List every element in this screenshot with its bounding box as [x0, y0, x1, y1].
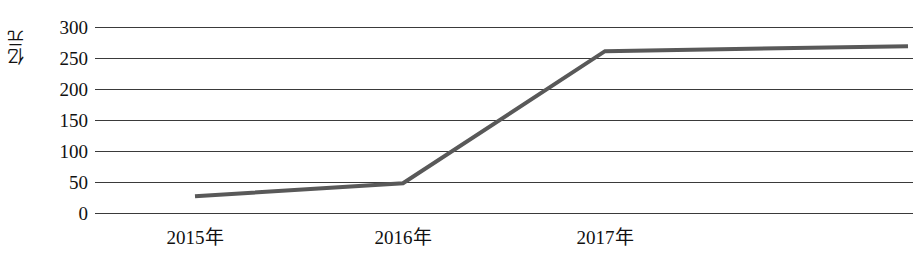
- y-tick-label-200: 200: [32, 80, 88, 99]
- x-tick-label-2017: 2017年: [577, 228, 634, 247]
- y-tick-label-150: 150: [32, 111, 88, 130]
- y-tick-label-300: 300: [32, 18, 88, 37]
- x-tick-label-2016: 2016年: [375, 228, 432, 247]
- x-tick-label-2015: 2015年: [167, 228, 224, 247]
- y-tick-label-100: 100: [32, 142, 88, 161]
- y-tick-label-50: 50: [32, 173, 88, 192]
- line-chart: 亿元 300 250 200 150 100 50 0 2015年 2016年 …: [0, 0, 919, 277]
- series-polyline: [195, 46, 908, 196]
- y-tick-label-250: 250: [32, 49, 88, 68]
- y-tick-label-0: 0: [32, 204, 88, 223]
- y-axis-tick-labels: 300 250 200 150 100 50 0: [26, 0, 88, 277]
